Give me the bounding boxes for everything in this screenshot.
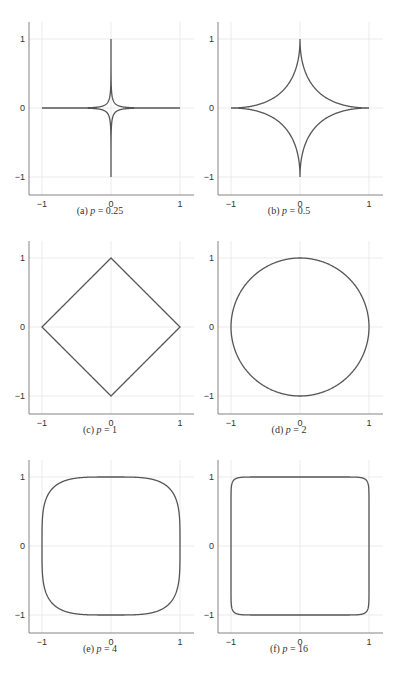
caption-value: = 4 [101, 643, 117, 654]
caption-a: (a) p = 0.25 [0, 205, 200, 216]
y-tick-label: 0 [20, 541, 25, 551]
caption-value: = 1 [101, 424, 117, 435]
y-tick-label: 1 [209, 472, 214, 482]
y-tick-label: 1 [209, 253, 214, 263]
y-tick-label: −1 [204, 610, 214, 620]
y-tick-label: 1 [20, 34, 25, 44]
y-tick-label: −1 [204, 391, 214, 401]
plot-e: −101−101 [0, 438, 200, 663]
plot-f: −101−101 [189, 438, 389, 663]
caption-b: (b) p = 0.5 [189, 205, 389, 216]
plot-c: −101−101 [0, 219, 200, 444]
panel-b: −101−101 (b) p = 0.5 [189, 0, 389, 225]
caption-label: (e) [83, 643, 97, 654]
caption-label: (d) [272, 424, 286, 435]
y-tick-label: 0 [20, 103, 25, 113]
panel-e: −101−101 (e) p = 4 [0, 438, 200, 663]
y-tick-label: −1 [15, 610, 25, 620]
caption-e: (e) p = 4 [0, 643, 200, 654]
panel-f: −101−101 (f) p = 16 [189, 438, 389, 663]
panel-a: −101−101 (a) p = 0.25 [0, 0, 200, 225]
caption-label: (a) [77, 205, 91, 216]
caption-value: = 16 [287, 643, 308, 654]
caption-c: (c) p = 1 [0, 424, 200, 435]
y-tick-label: 0 [20, 322, 25, 332]
plot-a: −101−101 [0, 0, 200, 225]
y-tick-label: −1 [204, 172, 214, 182]
y-tick-label: 0 [209, 103, 214, 113]
caption-label: (b) [268, 205, 282, 216]
caption-d: (d) p = 2 [189, 424, 389, 435]
panel-d: −101−101 (d) p = 2 [189, 219, 389, 444]
caption-value: = 0.25 [95, 205, 123, 216]
plot-b: −101−101 [189, 0, 389, 225]
caption-value: = 0.5 [287, 205, 310, 216]
caption-label: (c) [83, 424, 97, 435]
y-tick-label: 1 [209, 34, 214, 44]
y-tick-label: 1 [20, 472, 25, 482]
caption-f: (f) p = 16 [189, 643, 389, 654]
plot-d: −101−101 [189, 219, 389, 444]
panel-c: −101−101 (c) p = 1 [0, 219, 200, 444]
y-tick-label: 0 [209, 322, 214, 332]
y-tick-label: −1 [15, 172, 25, 182]
caption-label: (f) [270, 643, 283, 654]
caption-value: = 2 [291, 424, 307, 435]
y-tick-label: −1 [15, 391, 25, 401]
y-tick-label: 0 [209, 541, 214, 551]
y-tick-label: 1 [20, 253, 25, 263]
